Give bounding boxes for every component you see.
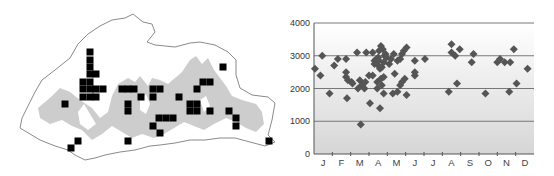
x-tick-label: S	[467, 157, 473, 168]
y-axis-ticks: 01000200030004000	[290, 18, 310, 159]
x-tick-label: A	[375, 157, 382, 168]
x-tick-label: O	[484, 157, 491, 168]
record-marker	[87, 49, 94, 56]
record-marker	[87, 86, 94, 93]
record-marker	[93, 71, 100, 78]
record-marker	[194, 108, 201, 115]
record-marker	[125, 108, 132, 115]
record-marker	[176, 94, 183, 101]
record-marker	[93, 94, 100, 101]
record-marker	[150, 94, 157, 101]
record-marker	[87, 57, 94, 64]
record-marker	[187, 101, 194, 108]
record-marker	[100, 86, 107, 93]
y-tick-label: 2000	[290, 84, 310, 94]
record-marker	[187, 108, 194, 115]
record-marker	[87, 71, 94, 78]
record-marker	[125, 138, 132, 145]
record-marker	[157, 86, 164, 93]
record-marker	[87, 79, 94, 86]
record-marker	[119, 86, 126, 93]
record-marker	[233, 115, 240, 122]
record-marker	[138, 94, 145, 101]
x-tick-label: J	[321, 157, 326, 168]
record-marker	[125, 101, 132, 108]
x-tick-label: M	[393, 157, 401, 168]
record-marker	[62, 101, 69, 108]
record-marker	[194, 86, 201, 93]
y-tick-label: 4000	[290, 18, 310, 28]
record-marker	[200, 79, 207, 86]
x-tick-label: M	[356, 157, 364, 168]
record-marker	[131, 86, 138, 93]
y-tick-label: 3000	[290, 51, 310, 61]
x-tick-label: A	[448, 157, 455, 168]
record-marker	[93, 86, 100, 93]
record-marker	[163, 115, 170, 122]
record-marker	[226, 108, 233, 115]
x-tick-label: N	[503, 157, 510, 168]
x-tick-label: J	[412, 157, 417, 168]
y-tick-label: 0	[305, 149, 310, 159]
distribution-map	[0, 0, 290, 176]
record-marker	[157, 130, 164, 137]
record-marker	[150, 86, 157, 93]
record-marker	[156, 115, 163, 122]
record-marker	[207, 79, 214, 86]
record-marker	[220, 64, 227, 71]
record-marker	[75, 138, 82, 145]
record-marker	[87, 64, 94, 71]
x-tick-label: J	[431, 157, 436, 168]
record-marker	[80, 86, 87, 93]
record-marker	[80, 79, 87, 86]
record-marker	[125, 86, 132, 93]
y-tick-label: 1000	[290, 116, 310, 126]
record-marker	[194, 101, 201, 108]
record-marker	[150, 123, 157, 130]
record-marker	[170, 115, 177, 122]
elevation-scatter-chart: 01000200030004000 JFMAMJJASOND	[290, 0, 554, 176]
record-marker	[87, 94, 94, 101]
record-marker	[233, 123, 240, 130]
record-marker	[207, 108, 214, 115]
record-marker	[68, 145, 75, 152]
x-tick-label: F	[339, 157, 345, 168]
record-marker	[266, 138, 273, 145]
record-marker	[80, 94, 87, 101]
x-tick-label: D	[521, 157, 528, 168]
